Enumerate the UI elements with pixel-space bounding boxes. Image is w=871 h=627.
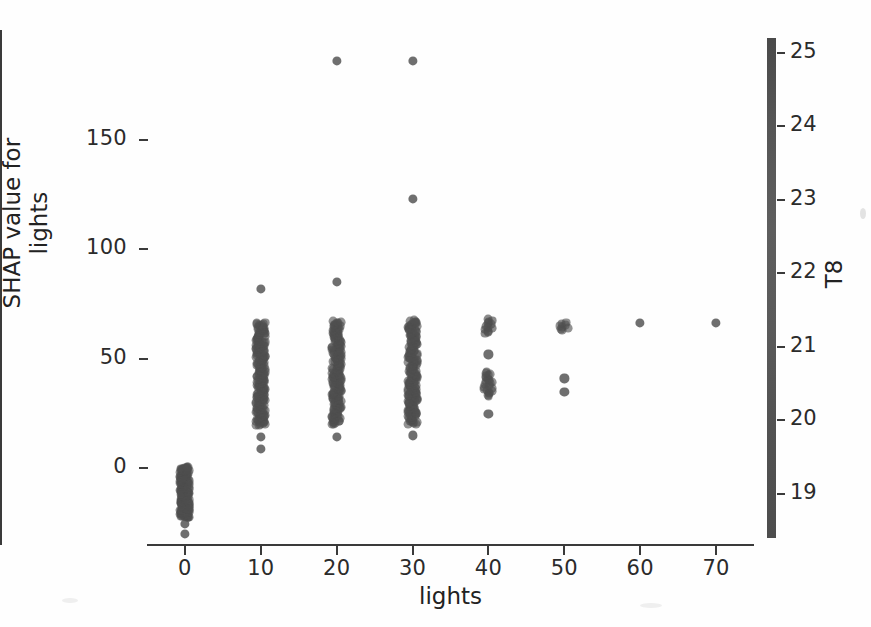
colorbar-tick-label: 19 (790, 480, 832, 504)
x-tick-mark (715, 546, 717, 555)
x-tick-label: 40 (458, 556, 518, 580)
colorbar-tick-label: 24 (790, 112, 832, 136)
x-tick-mark (412, 546, 414, 555)
x-tick-mark (184, 546, 186, 555)
x-tick-mark (639, 546, 641, 555)
colorbar-tick-label: 23 (790, 186, 832, 210)
scatter-point (337, 318, 346, 327)
colorbar-tick-mark (777, 419, 785, 421)
scatter-point (484, 350, 493, 359)
scatter-point (180, 529, 189, 538)
colorbar-tick-mark (777, 52, 785, 54)
scatter-point (332, 432, 341, 441)
scan-speck (860, 208, 866, 219)
x-tick-label: 10 (231, 556, 291, 580)
y-tick-label: 100 (67, 235, 127, 259)
scatter-point (256, 432, 265, 441)
colorbar-label: T8 (821, 229, 847, 319)
scatter-point (261, 318, 270, 327)
plot-area (147, 30, 754, 545)
colorbar-gradient (767, 38, 776, 538)
scatter-point (409, 316, 418, 325)
scatter-point (256, 444, 265, 453)
y-axis-label: SHAP value for lights (0, 93, 53, 353)
scatter-points-layer (147, 30, 754, 545)
x-tick-label: 70 (686, 556, 746, 580)
y-tick-label: 150 (67, 126, 127, 150)
colorbar-tick-mark (777, 199, 785, 201)
colorbar-tick-mark (777, 346, 785, 348)
y-axis-label-line1: SHAP value for (0, 93, 26, 353)
scatter-point (183, 463, 192, 472)
scatter-point (482, 367, 491, 376)
scatter-point (560, 374, 569, 383)
scatter-point (332, 277, 341, 286)
scatter-point (408, 56, 417, 65)
scatter-point (408, 431, 417, 440)
scatter-point (332, 56, 341, 65)
scatter-point (256, 284, 265, 293)
scan-speck (640, 603, 662, 608)
y-axis-label-line2: lights (26, 93, 53, 353)
scatter-point (561, 318, 570, 327)
scatter-point (484, 315, 493, 324)
scatter-point (560, 387, 569, 396)
scatter-point (329, 317, 338, 326)
scatter-point (180, 520, 189, 529)
x-tick-label: 20 (307, 556, 367, 580)
x-tick-mark (260, 546, 262, 555)
x-tick-mark (563, 546, 565, 555)
colorbar-tick-mark (777, 125, 785, 127)
colorbar-tick-label: 25 (790, 39, 832, 63)
y-tick-label: 0 (67, 454, 127, 478)
scatter-point (484, 409, 493, 418)
x-axis-label: lights (147, 583, 754, 609)
x-tick-label: 50 (534, 556, 594, 580)
y-tick-label: 50 (67, 345, 127, 369)
colorbar-tick-mark (777, 493, 785, 495)
scatter-point (636, 318, 645, 327)
scatter-point (711, 318, 720, 327)
figure-canvas: 050100150 010203040506070 SHAP value for… (0, 0, 871, 627)
colorbar-tick-mark (777, 272, 785, 274)
colorbar-tick-label: 21 (790, 333, 832, 357)
x-tick-label: 0 (155, 556, 215, 580)
scatter-point (408, 194, 417, 203)
x-tick-label: 30 (383, 556, 443, 580)
x-tick-mark (336, 546, 338, 555)
scan-speck (8, 196, 13, 201)
x-tick-mark (487, 546, 489, 555)
colorbar-tick-label: 20 (790, 406, 832, 430)
scan-speck (62, 598, 78, 603)
x-tick-label: 60 (610, 556, 670, 580)
